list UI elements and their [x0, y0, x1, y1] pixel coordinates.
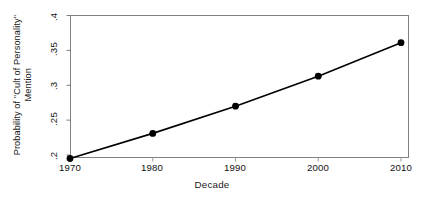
- x-axis-ticks: [70, 158, 401, 162]
- data-point-marker: [149, 130, 156, 137]
- plot-frame: [71, 16, 409, 158]
- chart-figure: Probability of "Cult of Personality" Men…: [0, 0, 424, 199]
- data-point-marker: [398, 39, 405, 46]
- data-point-marker: [315, 73, 322, 80]
- data-point-marker: [67, 155, 74, 162]
- data-point-marker: [232, 103, 239, 110]
- y-axis-ticks: [67, 16, 71, 156]
- plot-area: [0, 0, 424, 199]
